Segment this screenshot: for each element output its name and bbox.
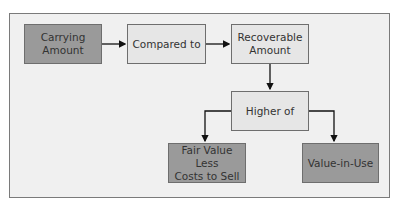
node-label: Amount bbox=[42, 44, 83, 56]
node-compared-to: Compared to bbox=[127, 24, 206, 64]
node-value-in-use: Value-in-Use bbox=[302, 143, 379, 183]
node-recoverable-amount: RecoverableAmount bbox=[231, 24, 309, 64]
node-label: Costs to Sell bbox=[175, 170, 240, 182]
node-fair-value-less-costs-to-sell: Fair Value LessCosts to Sell bbox=[168, 143, 246, 183]
node-label: Compared to bbox=[132, 38, 200, 51]
node-label: Value-in-Use bbox=[308, 157, 374, 170]
node-carrying-amount: CarryingAmount bbox=[24, 24, 102, 64]
node-label: Recoverable bbox=[238, 31, 303, 43]
node-label: Amount bbox=[249, 44, 290, 56]
node-label: Carrying bbox=[41, 31, 86, 43]
node-label: Fair Value Less bbox=[182, 144, 233, 169]
node-higher-of: Higher of bbox=[231, 91, 309, 131]
node-label: Higher of bbox=[246, 105, 294, 118]
